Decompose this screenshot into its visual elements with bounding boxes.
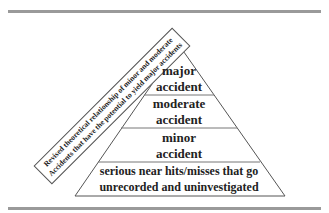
bottom-rule xyxy=(8,207,321,210)
tier-line: serious near hits/misses that go xyxy=(90,163,268,179)
tier-line: accident xyxy=(119,146,239,162)
tier-line: moderate xyxy=(129,96,229,112)
tier-line: accident xyxy=(129,112,229,128)
tier-line: unrecorded and uninvestigated xyxy=(90,179,268,195)
tier-major-accident: major accident xyxy=(139,63,219,95)
tier-near-misses: serious near hits/misses that go unrecor… xyxy=(90,163,268,195)
tier-line: major xyxy=(139,63,219,79)
tier-minor-accident: minor accident xyxy=(119,130,239,162)
tier-line: accident xyxy=(139,79,219,95)
tier-moderate-accident: moderate accident xyxy=(129,96,229,128)
tier-line: minor xyxy=(119,130,239,146)
